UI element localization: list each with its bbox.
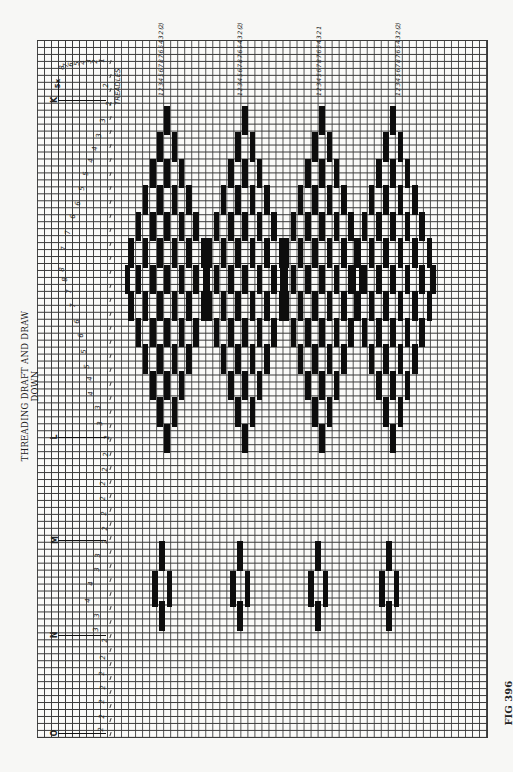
draw-down-cell bbox=[334, 212, 340, 241]
draw-down-cell bbox=[327, 291, 333, 320]
draw-down-cell bbox=[179, 212, 185, 241]
draw-down-cell bbox=[150, 212, 156, 241]
draw-down-cell bbox=[312, 397, 318, 426]
threading-number: 2 bbox=[102, 526, 109, 530]
draw-down-cell bbox=[398, 132, 404, 161]
graph-paper-grid bbox=[37, 40, 488, 738]
draw-down-cell bbox=[242, 371, 248, 400]
draw-down-cell bbox=[334, 159, 340, 188]
draw-down-cell bbox=[430, 265, 436, 294]
draw-down-cell bbox=[128, 291, 134, 320]
draw-down-cell bbox=[242, 318, 248, 347]
draw-down-cell bbox=[369, 185, 375, 214]
draw-down-cell bbox=[427, 291, 433, 320]
motif-cell bbox=[159, 541, 165, 571]
draw-down-cell bbox=[228, 371, 234, 400]
draw-down-cell bbox=[143, 344, 149, 373]
draw-down-cell bbox=[419, 318, 425, 347]
draw-down-cell bbox=[228, 318, 234, 347]
draw-down-cell bbox=[157, 238, 163, 267]
draw-down-cell bbox=[398, 185, 404, 214]
marker-line bbox=[58, 733, 106, 734]
threading-number: 3 bbox=[94, 613, 101, 617]
motif-cell bbox=[237, 601, 243, 631]
draw-down-cell bbox=[341, 344, 347, 373]
draw-down-cell bbox=[221, 291, 227, 320]
threading-number: 2 bbox=[100, 685, 107, 689]
draw-down-cell bbox=[186, 185, 192, 214]
draw-down-cell bbox=[242, 265, 248, 294]
draw-down-cell bbox=[250, 238, 256, 267]
draw-down-cell bbox=[283, 238, 289, 267]
threading-number: 2 bbox=[102, 539, 109, 543]
draw-down-cell bbox=[250, 291, 256, 320]
draw-down-cell bbox=[257, 212, 263, 241]
draw-down-cell bbox=[164, 106, 170, 135]
motif-cell bbox=[159, 601, 165, 631]
draw-down-cell bbox=[250, 132, 256, 161]
draw-down-cell bbox=[193, 212, 199, 241]
draw-down-cell bbox=[235, 344, 241, 373]
draw-down-cell bbox=[334, 371, 340, 400]
threading-number: 4 bbox=[88, 391, 95, 395]
threading-number: 2 bbox=[99, 714, 106, 718]
draw-down-cell bbox=[383, 132, 389, 161]
threading-number: 2 bbox=[102, 467, 109, 471]
draw-down-cell bbox=[242, 212, 248, 241]
threading-number: 4 bbox=[92, 146, 99, 150]
draw-down-cell bbox=[221, 344, 227, 373]
draw-down-cell bbox=[390, 159, 396, 188]
draw-down-cell bbox=[157, 185, 163, 214]
draw-down-cell bbox=[419, 212, 425, 241]
draw-down-cell bbox=[305, 265, 311, 294]
draw-down-cell bbox=[412, 238, 418, 267]
draw-down-cell bbox=[221, 185, 227, 214]
threading-number: 1 bbox=[99, 58, 106, 62]
draw-down-cell bbox=[291, 265, 297, 294]
draw-down-cell bbox=[312, 185, 318, 214]
draw-down-cell bbox=[312, 238, 318, 267]
draw-down-cell bbox=[172, 132, 178, 161]
draw-down-cell bbox=[242, 424, 248, 453]
draw-down-cell bbox=[376, 212, 382, 241]
threading-number: 5 bbox=[81, 349, 88, 353]
motif-cell bbox=[315, 601, 321, 631]
draw-down-cell bbox=[390, 371, 396, 400]
draw-down-cell bbox=[172, 344, 178, 373]
draw-down-cell bbox=[312, 291, 318, 320]
draw-down-cell bbox=[390, 106, 396, 135]
draw-down-cell bbox=[257, 265, 263, 294]
draw-down-cell bbox=[271, 265, 277, 294]
threading-number: 2 bbox=[101, 511, 108, 515]
draw-down-cell bbox=[257, 318, 263, 347]
marker-line bbox=[58, 437, 106, 438]
threading-number: 5 bbox=[83, 171, 90, 175]
draw-down-cell bbox=[390, 212, 396, 241]
draw-down-cell bbox=[312, 344, 318, 373]
draw-down-cell bbox=[412, 291, 418, 320]
motif-cell bbox=[379, 571, 385, 607]
draw-down-cell bbox=[264, 344, 270, 373]
draw-down-cell bbox=[327, 132, 333, 161]
draw-down-cell bbox=[143, 238, 149, 267]
draw-down-cell bbox=[242, 106, 248, 135]
draw-down-cell bbox=[341, 238, 347, 267]
draw-down-cell bbox=[354, 291, 360, 320]
draw-down-cell bbox=[398, 344, 404, 373]
draw-down-cell bbox=[214, 212, 220, 241]
threading-number: 2 bbox=[100, 655, 107, 659]
threading-number: 3 bbox=[95, 553, 102, 557]
draw-down-cell bbox=[164, 212, 170, 241]
threading-number: 2 bbox=[99, 699, 106, 703]
draw-down-cell bbox=[228, 159, 234, 188]
draw-down-cell bbox=[319, 159, 325, 188]
threading-number: 4 bbox=[85, 598, 92, 602]
draw-down-cell bbox=[179, 265, 185, 294]
draw-down-cell bbox=[412, 344, 418, 373]
motif-cell bbox=[386, 601, 392, 631]
draw-down-cell bbox=[164, 265, 170, 294]
draw-down-cell bbox=[305, 159, 311, 188]
threading-number: 7 bbox=[65, 230, 72, 234]
draw-down-cell bbox=[250, 397, 256, 426]
motif-cell bbox=[167, 571, 173, 607]
